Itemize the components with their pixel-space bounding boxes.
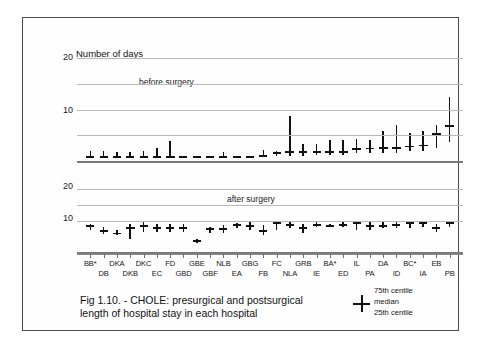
x-axis-label: PB bbox=[445, 269, 455, 278]
x-axis-tick bbox=[90, 254, 91, 258]
x-axis-label: PA bbox=[365, 269, 374, 278]
x-axis-label: FC bbox=[272, 259, 282, 268]
x-axis-tick bbox=[210, 254, 211, 258]
gridline bbox=[77, 221, 463, 222]
x-axis-label: FB bbox=[259, 269, 269, 278]
gridline bbox=[77, 189, 463, 190]
x-axis-label: DKA bbox=[109, 259, 124, 268]
x-axis-label: EA bbox=[232, 269, 242, 278]
x-axis-label: BA* bbox=[323, 259, 336, 268]
x-axis-label: DKB bbox=[123, 269, 138, 278]
x-axis-tick bbox=[144, 254, 145, 258]
gridline bbox=[77, 135, 463, 136]
x-axis-label: IA bbox=[420, 269, 427, 278]
panel-after-annotation: after surgery bbox=[227, 194, 275, 204]
x-axis-label: GBG bbox=[242, 259, 259, 268]
x-axis-tick bbox=[436, 254, 437, 258]
x-axis-tick bbox=[383, 254, 384, 258]
legend-label-median: median bbox=[374, 297, 399, 306]
x-axis-label: NLA bbox=[283, 269, 297, 278]
x-axis-tick bbox=[330, 254, 331, 258]
x-axis-label: IL bbox=[353, 259, 359, 268]
panel-before-surgery: before surgery bbox=[77, 53, 463, 161]
x-axis-label: GBF bbox=[202, 269, 217, 278]
x-axis-label: BC* bbox=[403, 259, 416, 268]
x-axis-tick bbox=[183, 254, 184, 258]
x-axis-tick bbox=[223, 254, 224, 258]
x-axis-tick bbox=[117, 254, 118, 258]
panel-baseline bbox=[77, 161, 463, 163]
x-axis-tick bbox=[263, 254, 264, 258]
panel-after-surgery: after surgery bbox=[77, 186, 463, 252]
x-axis-label: DA bbox=[378, 259, 388, 268]
x-axis-tick bbox=[130, 254, 131, 258]
x-axis-label: EC bbox=[152, 269, 162, 278]
x-axis-tick bbox=[317, 254, 318, 258]
gridline bbox=[77, 205, 463, 206]
x-axis-tick bbox=[277, 254, 278, 258]
gridline bbox=[77, 110, 463, 111]
ytick-after-20: 20 bbox=[51, 182, 73, 191]
x-axis-tick bbox=[197, 254, 198, 258]
x-axis-label: DB bbox=[98, 269, 108, 278]
x-axis-label: BB* bbox=[84, 259, 97, 268]
x-axis-label: GBE bbox=[189, 259, 205, 268]
figure-frame: Number of days before surgery 20 10 afte… bbox=[22, 17, 459, 331]
legend-label-75th: 75th centile bbox=[374, 286, 413, 295]
cross-whisker-icon bbox=[353, 295, 370, 312]
x-axis-tick bbox=[250, 254, 251, 258]
ytick-after-10: 10 bbox=[51, 214, 73, 223]
x-axis-tick bbox=[370, 254, 371, 258]
x-axis-label: EB bbox=[431, 259, 441, 268]
x-axis-label: DKC bbox=[136, 259, 152, 268]
figure-caption: Fig 1.10. - CHOLE: presurgical and posts… bbox=[80, 294, 332, 320]
x-axis-tick bbox=[303, 254, 304, 258]
gridline bbox=[77, 58, 463, 59]
ytick-before-20: 20 bbox=[51, 53, 73, 62]
x-axis-label: GBD bbox=[175, 269, 191, 278]
x-axis-tick bbox=[357, 254, 358, 258]
x-axis-tick bbox=[450, 254, 451, 258]
x-axis-tick bbox=[410, 254, 411, 258]
x-axis-label: NLB bbox=[216, 259, 230, 268]
ytick-before-10: 10 bbox=[51, 106, 73, 115]
x-axis-tick bbox=[343, 254, 344, 258]
x-axis-tick bbox=[237, 254, 238, 258]
x-axis-tick bbox=[157, 254, 158, 258]
x-axis-tick bbox=[290, 254, 291, 258]
x-axis-label: FD bbox=[165, 259, 175, 268]
x-axis-tick bbox=[423, 254, 424, 258]
x-axis-label: ID bbox=[393, 269, 400, 278]
x-axis-line bbox=[77, 254, 463, 255]
x-axis-label: ED bbox=[338, 269, 348, 278]
x-axis-label: IE bbox=[313, 269, 320, 278]
x-axis-label: GRB bbox=[295, 259, 311, 268]
legend-label-25th: 25th centile bbox=[374, 308, 413, 317]
x-axis-tick bbox=[104, 254, 105, 258]
panel-before-annotation: before surgery bbox=[139, 77, 194, 87]
legend: 75th centile median 25th centile bbox=[353, 286, 463, 320]
x-axis-tick bbox=[170, 254, 171, 258]
x-axis-tick bbox=[396, 254, 397, 258]
gridline bbox=[77, 84, 463, 85]
